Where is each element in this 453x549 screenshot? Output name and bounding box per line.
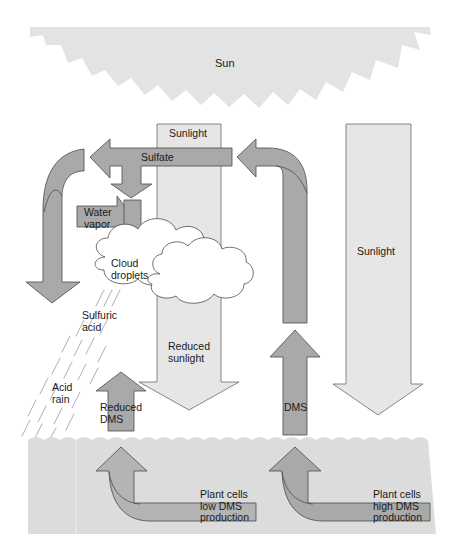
sulfuric-acid-curved-arrow [26, 149, 84, 303]
water-vapor-label: Water vapor [84, 207, 112, 230]
diagram-canvas [0, 0, 453, 549]
plant-low-label: Plant cells low DMS production [200, 489, 249, 524]
sunlight-top-label: Sunlight [169, 128, 207, 140]
sun-label: Sun [215, 58, 235, 70]
dms-label: DMS [284, 402, 307, 414]
dms-cycle-diagram: Sun Sunlight Sulfate Water vapor Cloud d… [0, 0, 453, 549]
reduced-dms-label: Reduced DMS [100, 402, 142, 425]
sunlight-right-label: Sunlight [357, 246, 395, 258]
plant-high-label: Plant cells high DMS production [373, 489, 422, 524]
acid-rain-label: Acid rain [52, 382, 72, 405]
sulfate-label: Sulfate [141, 152, 174, 164]
dms-up-arrow [270, 330, 320, 435]
cloud-droplets-label: Cloud droplets [111, 258, 148, 281]
sulfuric-acid-label: Sulfuric acid [82, 310, 117, 333]
reduced-sunlight-label: Reduced sunlight [168, 341, 210, 364]
dms-to-sulfate-curved-arrow [237, 139, 307, 323]
sunlight-right-arrow [333, 124, 423, 415]
